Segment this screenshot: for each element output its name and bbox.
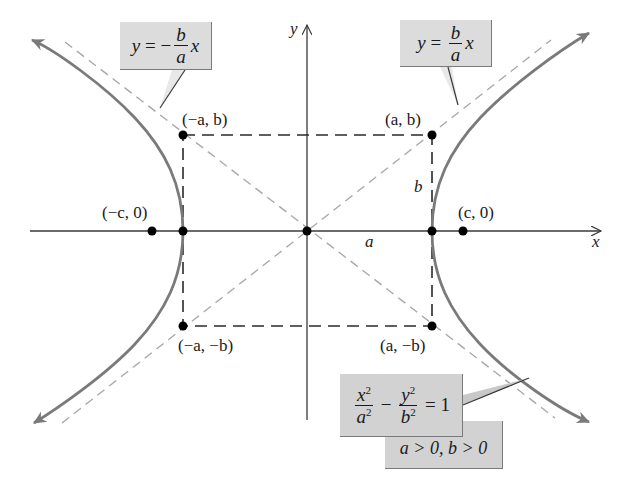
callout-pointer-line [463, 378, 529, 405]
callout-hyperbola-equation: x2 a2 − y2 b2 = 1 [340, 374, 463, 437]
point-a-b [428, 131, 437, 140]
fraction-numerator: b [449, 23, 463, 44]
fraction-b-over-a: b a [174, 25, 188, 66]
label-neg-c-0: (−c, 0) [102, 203, 147, 223]
equation-rhs: = 1 [420, 394, 450, 416]
hyperbola-left-branch-lower [34, 231, 183, 423]
label-a-b: (a, b) [385, 110, 421, 130]
equation-minus: − [376, 394, 396, 416]
fraction-denominator: b2 [401, 406, 416, 426]
y-axis-label: y [290, 19, 298, 39]
fraction-denominator: a [451, 44, 461, 64]
conditions-text: a > 0, b > 0 [400, 438, 487, 459]
callout-lhs: y [132, 35, 140, 57]
callout-eq: = [426, 32, 446, 54]
callout-negative-asymptote: y = − b a x [120, 22, 212, 70]
callout-var: x [465, 32, 473, 54]
label-a-neg-b: (a, −b) [380, 336, 425, 356]
point-neg-a-neg-b [179, 322, 188, 331]
focus-left [148, 227, 157, 236]
vertex-right [428, 227, 437, 236]
fraction-denominator: a2 [357, 406, 372, 426]
label-semi-axis-a: a [365, 232, 374, 252]
callout-lhs: y [417, 32, 425, 54]
fraction-numerator: y2 [399, 385, 417, 406]
hyperbola-diagram [0, 0, 631, 495]
vertex-left [179, 227, 188, 236]
origin [303, 227, 312, 236]
label-semi-axis-b: b [414, 177, 423, 197]
fraction-numerator: x2 [355, 385, 373, 406]
x-axis-label: x [592, 232, 600, 252]
callout-var: x [191, 35, 199, 57]
label-neg-a-b: (−a, b) [182, 110, 227, 130]
callout-eq: = − [140, 35, 171, 57]
fraction-denominator: a [176, 46, 186, 66]
callout-positive-asymptote: y = b a x [400, 20, 492, 67]
point-a-neg-b [428, 322, 437, 331]
fraction-y2-over-b2: y2 b2 [399, 385, 417, 426]
label-c-0: (c, 0) [458, 203, 494, 223]
focus-right [459, 227, 468, 236]
label-neg-a-neg-b: (−a, −b) [178, 336, 233, 356]
fraction-x2-over-a2: x2 a2 [355, 385, 373, 426]
point-neg-a-b [179, 131, 188, 140]
fraction-b-over-a: b a [449, 23, 463, 64]
fraction-numerator: b [174, 25, 188, 46]
